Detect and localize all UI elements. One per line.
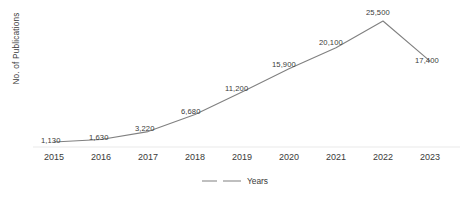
x-tick-2015: 2015: [31, 152, 77, 162]
data-label-2022: 25,500: [366, 8, 390, 17]
x-tick-2016: 2016: [78, 152, 124, 162]
data-label-2015: 1,130: [41, 136, 61, 145]
x-tick-2023: 2023: [407, 152, 453, 162]
plot-area: [0, 0, 469, 201]
line-chart: No. of Publications 2015 2016 2017 2018 …: [0, 0, 469, 201]
data-label-2016: 1,630: [89, 133, 109, 142]
data-label-2017: 3,220: [135, 124, 155, 133]
data-label-2020: 15,900: [272, 60, 296, 69]
x-tick-2021: 2021: [313, 152, 359, 162]
chart-legend: Years: [0, 176, 469, 186]
legend-line-icon: [201, 176, 243, 186]
x-tick-2018: 2018: [172, 152, 218, 162]
data-label-2023: 17,400: [415, 56, 439, 65]
x-tick-2020: 2020: [266, 152, 312, 162]
data-label-2018: 6,680: [181, 107, 201, 116]
x-tick-2022: 2022: [360, 152, 406, 162]
legend-item-years: Years: [247, 176, 268, 186]
data-label-2019: 11,200: [225, 84, 248, 93]
data-label-2021: 20,100: [319, 38, 343, 47]
x-tick-2017: 2017: [125, 152, 171, 162]
series-line-years: [54, 21, 430, 142]
x-tick-2019: 2019: [219, 152, 265, 162]
